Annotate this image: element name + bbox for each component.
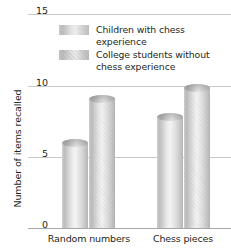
bar-top-shading: [62, 139, 88, 147]
axis-baseline: [28, 228, 231, 229]
legend-item-label: Children with chess experience: [96, 24, 229, 47]
bar-top-ellipse: [184, 84, 210, 92]
bar-random-numbers-college: [89, 99, 115, 228]
gridline-15: [28, 14, 231, 15]
bar-chart: Number of items recalled 15 10 5 0 Rando…: [0, 0, 231, 252]
x-tick-label-chess-pieces: Chess pieces: [128, 233, 231, 244]
bar-body: [157, 117, 183, 228]
legend-item-college: College students without chess experienc…: [59, 49, 229, 72]
bar-top-ellipse: [62, 139, 88, 147]
bar-top-shading: [157, 113, 183, 121]
y-tick-label-0: 0: [26, 219, 48, 230]
bar-random-numbers-children: [62, 143, 88, 228]
bar-top-shading: [89, 95, 115, 103]
y-axis-title: Number of items recalled: [12, 69, 23, 229]
legend-swatch-icon: [59, 25, 89, 35]
bar-body: [89, 99, 115, 228]
bar-top-ellipse: [89, 95, 115, 103]
bar-top-ellipse: [157, 113, 183, 121]
bar-body: [62, 143, 88, 228]
y-tick-label-15: 15: [26, 5, 48, 16]
legend-item-children: Children with chess experience: [59, 24, 229, 47]
y-tick-label-10: 10: [26, 77, 48, 88]
bar-body: [184, 88, 210, 228]
bar-top-shading: [184, 84, 210, 92]
legend-swatch-icon: [59, 50, 89, 60]
legend-item-label: College students without chess experienc…: [96, 49, 229, 72]
legend: Children with chess experience College s…: [59, 24, 229, 74]
bar-chess-pieces-college: [184, 88, 210, 228]
y-tick-label-5: 5: [26, 148, 48, 159]
bar-chess-pieces-children: [157, 117, 183, 228]
